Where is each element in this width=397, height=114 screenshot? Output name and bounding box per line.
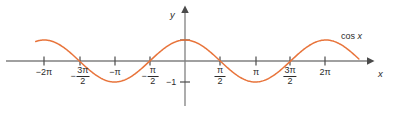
fraction-numerator: 3π <box>283 66 296 76</box>
curve-label: cos x <box>341 31 362 41</box>
fraction-denominator: 2 <box>286 77 293 87</box>
fraction-numerator: 3π <box>76 66 89 76</box>
x-tick-label-5: π <box>253 68 259 77</box>
curve-label-var: x <box>358 31 363 41</box>
fraction-numerator: π <box>149 66 157 76</box>
x-tick-label-3-sign: − <box>142 72 147 81</box>
fraction: π2 <box>215 66 226 86</box>
fraction-numerator: π <box>216 66 224 76</box>
fraction-denominator: 2 <box>149 77 156 87</box>
fraction: π2 <box>147 66 158 86</box>
x-tick-label-1: −3π2 <box>71 66 90 86</box>
cosine-graph-figure: y x −1 cos x −2π−3π2−π−π2π2π3π22π <box>0 0 397 114</box>
x-tick-label-7: 2π <box>319 68 330 77</box>
fraction-denominator: 2 <box>216 77 223 87</box>
x-tick-label-1-sign: − <box>71 72 76 81</box>
y-tick-label-minus-1: −1 <box>166 78 176 87</box>
x-tick-label-4: π2 <box>215 66 226 86</box>
x-tick-label-6: 3π2 <box>283 66 296 86</box>
fraction: 3π2 <box>283 66 296 86</box>
x-tick-label-0: −2π <box>36 68 52 77</box>
plot-canvas <box>0 0 397 114</box>
curve-label-func: cos <box>341 31 355 41</box>
fraction: 3π2 <box>76 66 89 86</box>
y-axis-label: y <box>170 10 175 20</box>
x-axis-label: x <box>378 69 383 79</box>
x-tick-label-2: −π <box>109 68 120 77</box>
x-tick-label-3: −π2 <box>142 66 159 86</box>
fraction-denominator: 2 <box>79 77 86 87</box>
